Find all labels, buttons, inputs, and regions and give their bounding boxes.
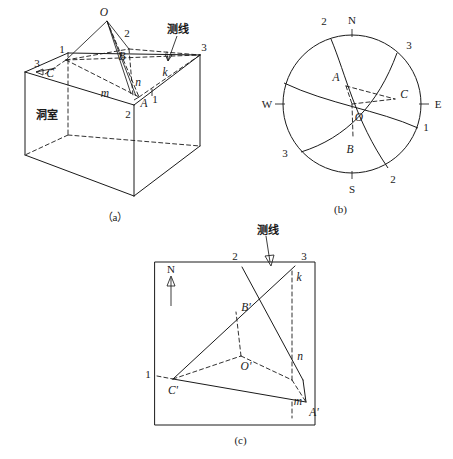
label-1-left-a: 1: [59, 43, 65, 55]
label-north-c: N: [167, 263, 175, 275]
caption-panel-b: (b): [228, 203, 453, 215]
label-survey-line-c: 测线: [257, 223, 279, 237]
arc-joint-1: [284, 83, 418, 128]
label-2-bottom-a: 2: [125, 108, 131, 120]
caption-panel-c: (c): [118, 434, 363, 446]
label-1-c: 1: [145, 368, 151, 380]
panel-b-drawing: N S W E 2 3 1 3 2 A C O B: [228, 0, 453, 212]
label-A-a: A: [139, 97, 148, 109]
panel-c-plan-view: N 测线 2 3 k B' n 1 O' C' m A' (c): [118, 228, 363, 459]
panel-a-block-diagram: O 2 测线 1 3 3 C B k n m A 1 2 洞室 （a）: [0, 0, 230, 230]
label-O-b: O: [355, 111, 364, 123]
caption-panel-a: （a）: [0, 208, 230, 224]
label-2-top-a: 2: [124, 27, 130, 39]
plan-dashed-lines: [157, 268, 306, 418]
label-B-a: B: [118, 50, 125, 62]
survey-line-arrow: [165, 36, 177, 61]
label-B-b: B: [346, 143, 353, 155]
label-east-b: E: [435, 98, 442, 110]
label-room-a: 洞室: [36, 108, 58, 122]
label-B-c: B': [241, 301, 251, 313]
label-m-a: m: [101, 87, 109, 99]
label-north-b: N: [348, 14, 356, 26]
label-n-a: n: [135, 76, 141, 88]
segments-kmn: [134, 97, 139, 100]
label-2-c: 2: [232, 250, 238, 262]
label-C-a: C: [46, 67, 54, 79]
label-west-b: W: [262, 98, 273, 110]
label-3-top-b: 3: [406, 39, 412, 51]
label-A-c: A': [308, 406, 319, 418]
label-1-right-a: 1: [152, 93, 158, 105]
panel-b-stereonet: N S W E 2 3 1 3 2 A C O B (b): [228, 0, 453, 230]
label-O-a: O: [100, 6, 109, 18]
plan-solid-traces: [173, 266, 306, 402]
label-3-bottom-b: 3: [282, 147, 288, 159]
label-C-b: C: [400, 88, 408, 100]
label-3-left-a: 3: [34, 57, 40, 69]
label-survey-line-a: 测线: [167, 22, 189, 36]
plan-frame: [155, 262, 315, 425]
label-k-c: k: [296, 271, 302, 283]
label-south-b: S: [349, 183, 355, 195]
panel-a-drawing: O 2 测线 1 3 3 C B k n m A 1 2 洞室: [0, 0, 230, 212]
label-A-b: A: [331, 71, 340, 83]
label-2-bottom-b: 2: [390, 173, 396, 185]
label-1-right-b: 1: [423, 121, 429, 133]
label-2-top-b: 2: [321, 15, 327, 27]
north-arrow-c: [167, 276, 175, 306]
label-n-c: n: [297, 350, 303, 362]
label-O-c: O': [241, 360, 252, 372]
label-C-c: C': [168, 384, 179, 396]
label-3-c: 3: [301, 250, 307, 262]
arc-joint-3: [301, 53, 397, 152]
panel-c-drawing: N 测线 2 3 k B' n 1 O' C' m A': [118, 228, 363, 438]
label-3-right-a: 3: [201, 41, 207, 53]
label-m-c: m: [294, 395, 302, 407]
label-k-a: k: [162, 66, 168, 78]
